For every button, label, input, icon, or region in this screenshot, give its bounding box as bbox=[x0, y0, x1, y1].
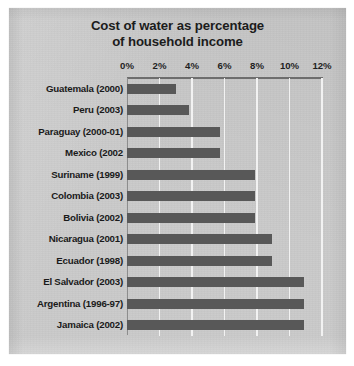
bar bbox=[127, 320, 304, 330]
scanned-page: Cost of water as percentage of household… bbox=[0, 0, 354, 366]
bar-row bbox=[127, 293, 322, 315]
chart-title-line-2: of household income bbox=[9, 34, 346, 50]
bar bbox=[127, 105, 189, 115]
bar-row bbox=[127, 78, 322, 100]
category-label: Peru (2003) bbox=[0, 104, 123, 115]
category-label: Jamaica (2002) bbox=[0, 319, 123, 330]
category-label: Suriname (1999) bbox=[0, 169, 123, 180]
category-label: Guatemala (2000) bbox=[0, 83, 123, 94]
category-label: Ecuador (1998) bbox=[0, 255, 123, 266]
bar-row bbox=[127, 315, 322, 337]
bar bbox=[127, 256, 272, 266]
category-label: Paraguay (2000-01) bbox=[0, 126, 123, 137]
bar bbox=[127, 127, 220, 137]
plot-area bbox=[127, 78, 322, 336]
category-label: Mexico (2002 bbox=[0, 147, 123, 158]
chart-title-line-1: Cost of water as percentage bbox=[9, 18, 346, 34]
bar-row bbox=[127, 229, 322, 251]
bar bbox=[127, 299, 304, 309]
bar-row bbox=[127, 250, 322, 272]
bar-row bbox=[127, 207, 322, 229]
category-label: El Salvador (2003) bbox=[0, 276, 123, 287]
category-label: Argentina (1996-97) bbox=[0, 298, 123, 309]
bar-row bbox=[127, 186, 322, 208]
bar bbox=[127, 234, 272, 244]
category-axis-labels: Guatemala (2000)Peru (2003)Paraguay (200… bbox=[0, 78, 123, 336]
bar-row bbox=[127, 143, 322, 165]
bar bbox=[127, 84, 176, 94]
bar-row bbox=[127, 164, 322, 186]
category-label: Nicaragua (2001) bbox=[0, 233, 123, 244]
bar-row bbox=[127, 121, 322, 143]
bar-row bbox=[127, 272, 322, 294]
bar bbox=[127, 191, 255, 201]
bar bbox=[127, 277, 304, 287]
bar bbox=[127, 170, 255, 180]
bar-row bbox=[127, 100, 322, 122]
chart-title: Cost of water as percentage of household… bbox=[9, 18, 346, 49]
bar bbox=[127, 148, 220, 158]
category-label: Bolivia (2002) bbox=[0, 212, 123, 223]
category-label: Colombia (2003) bbox=[0, 190, 123, 201]
bar bbox=[127, 213, 255, 223]
